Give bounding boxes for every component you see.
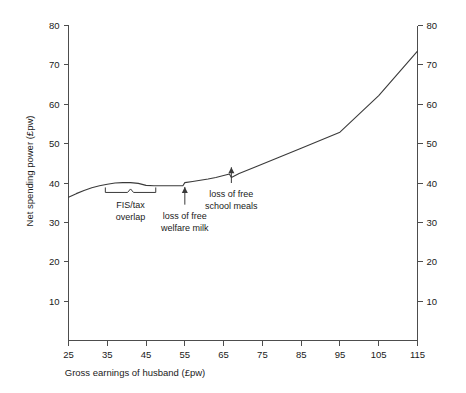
y-tick-label-left-80: 80	[49, 20, 60, 31]
x-tick-label-35: 35	[102, 349, 113, 360]
series-layer	[69, 51, 418, 197]
arrow-head-loss-free-school-meals	[228, 167, 234, 173]
x-axis-title: Gross earnings of husband (£pw)	[65, 367, 205, 378]
x-tick-label-85: 85	[296, 349, 307, 360]
series-line-0	[69, 51, 418, 197]
axes-layer	[64, 26, 423, 346]
y-tick-label-right-80: 80	[427, 20, 438, 31]
x-tick-label-45: 45	[141, 349, 152, 360]
y-tick-label-left-40: 40	[49, 178, 60, 189]
y-tick-label-right-30: 30	[427, 217, 438, 228]
y-tick-label-left-20: 20	[49, 256, 60, 267]
y-tick-label-right-50: 50	[427, 138, 438, 149]
x-tick-label-25: 25	[63, 349, 74, 360]
annotation-label-fis-tax-overlap: overlap	[116, 212, 146, 222]
y-tick-label-left-50: 50	[49, 138, 60, 149]
bracket-fis-tax-overlap	[105, 187, 155, 192]
x-tick-label-65: 65	[218, 349, 229, 360]
y-tick-label-left-30: 30	[49, 217, 60, 228]
y-tick-label-left-70: 70	[49, 59, 60, 70]
y-tick-label-right-70: 70	[427, 59, 438, 70]
y-tick-label-right-10: 10	[427, 296, 438, 307]
x-tick-label-55: 55	[180, 349, 191, 360]
y-tick-label-left-10: 10	[49, 296, 60, 307]
x-tick-label-115: 115	[410, 349, 425, 360]
y-axis-title: Net spending power (£pw)	[24, 116, 35, 227]
annotation-label-loss-free-welfare-milk: loss of free	[163, 211, 207, 221]
annotation-label-fis-tax-overlap: FIS/tax	[116, 200, 145, 210]
x-tick-label-95: 95	[335, 349, 346, 360]
y-tick-label-right-40: 40	[427, 178, 438, 189]
annotation-label-loss-free-welfare-milk: welfare milk	[160, 223, 209, 233]
y-tick-label-right-20: 20	[427, 256, 438, 267]
arrow-head-loss-free-welfare-milk	[182, 187, 188, 193]
chart-container: 2535455565758595105115102030405060708010…	[0, 0, 466, 393]
annotation-label-loss-free-school-meals: loss of free	[209, 189, 253, 199]
x-tick-label-75: 75	[257, 349, 268, 360]
annotation-label-loss-free-school-meals: school meals	[205, 201, 258, 211]
y-tick-label-right-60: 60	[427, 99, 438, 110]
labels-layer: 2535455565758595105115102030405060708010…	[24, 20, 437, 378]
y-tick-label-left-60: 60	[49, 99, 60, 110]
chart-figure: 2535455565758595105115102030405060708010…	[0, 0, 466, 393]
x-tick-label-105: 105	[371, 349, 387, 360]
